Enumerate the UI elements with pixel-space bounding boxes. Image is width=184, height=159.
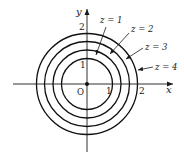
leader-arrow-z3 — [126, 48, 143, 59]
y-axis-label: y — [75, 6, 82, 17]
leader-arrow-z1 — [96, 27, 106, 55]
contour-label-z4: z = 4 — [154, 62, 177, 72]
x-tick-1: 1 — [106, 86, 112, 96]
leader-arrow-z4 — [138, 67, 153, 70]
contour-label-z2: z = 2 — [130, 24, 153, 34]
y-tick-2: 2 — [79, 22, 85, 32]
contour-diagram: y x O 2 1 1 2 z = 1 z = 2 z = 3 z = 4 — [0, 0, 184, 159]
x-axis-label: x — [166, 84, 172, 95]
contour-label-z1: z = 1 — [99, 15, 122, 25]
contour-label-z3: z = 3 — [144, 42, 167, 52]
x-tick-2: 2 — [139, 86, 145, 96]
leader-arrow-z2 — [110, 33, 129, 54]
origin-dot — [85, 82, 89, 86]
y-tick-1: 1 — [80, 60, 86, 70]
origin-label: O — [77, 87, 84, 97]
